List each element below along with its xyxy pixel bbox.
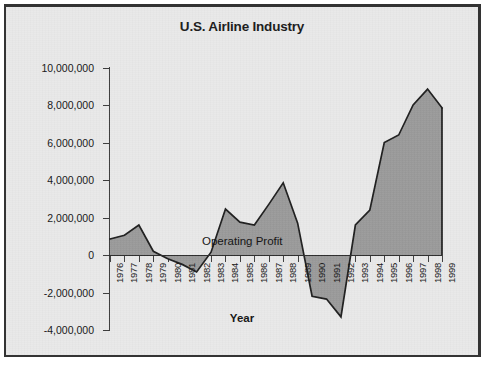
x-axis-tick-label: 1994 [374,263,385,283]
x-axis-tick-label: 1983 [215,263,226,283]
x-axis-tick-label: 1977 [128,263,139,283]
x-axis-tick-label: 1995 [388,263,399,283]
x-axis-tick-label: 1987 [273,263,284,283]
x-axis-tick-label: 1999 [446,263,457,283]
x-axis-tick-label: 1998 [432,263,443,283]
series-annotation-operating-profit: Operating Profit [202,235,283,247]
x-axis-tick-label: 1981 [186,263,197,283]
x-axis-tick-label: 1976 [114,263,125,283]
x-axis-tick-label: 1979 [157,263,168,283]
zero-baseline [109,255,442,256]
x-axis-tick-label: 1985 [244,263,255,283]
x-axis-tick-label: 1989 [302,263,313,283]
x-axis-tick-label: 1997 [417,263,428,283]
x-axis-tick-label: 1984 [229,263,240,283]
x-axis-tick-label: 1993 [359,263,370,283]
x-axis-tick-label: 1990 [316,263,327,283]
x-axis-tick-label: 1991 [331,263,342,283]
x-axis-tick-label: 1982 [201,263,212,283]
x-axis-tick-label: 1992 [345,263,356,283]
x-axis-tick-label: 1978 [143,263,154,283]
x-axis-tick-label: 1988 [287,263,298,283]
chart-figure: U.S. Airline Industry $ in Thousands 10,… [4,4,481,357]
x-axis-tick-label: 1980 [172,263,183,283]
x-axis-tick-label: 1986 [258,263,269,283]
plot-area: 10,000,0008,000,0006,000,0004,000,0002,0… [6,7,478,355]
x-axis-tick-label: 1996 [403,263,414,283]
area-series-plot [6,7,483,360]
